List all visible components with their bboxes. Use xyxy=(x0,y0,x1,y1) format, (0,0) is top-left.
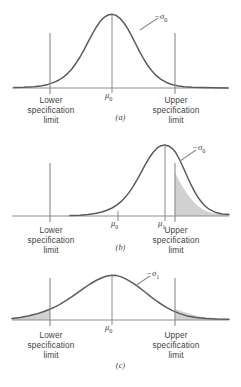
upper-spec-limit-label-c: Upper specification limit xyxy=(137,330,215,361)
panel-caption-b: (b) xyxy=(0,243,241,252)
process-capability-figure: −σ0 μ0 Lower specification limit Upper s… xyxy=(0,0,241,387)
panel-a: −σ0 μ0 Lower specification limit Upper s… xyxy=(0,0,241,125)
sigma-label-c: −σ1 xyxy=(146,268,159,280)
sigma-label-b: −σ0 xyxy=(192,142,205,154)
mean-label-a: μ0 xyxy=(105,90,112,102)
normal-curve-b xyxy=(70,145,229,216)
panel-caption-a: (a) xyxy=(0,113,241,122)
upper-tail-shade-b xyxy=(175,173,229,216)
sigma-label-a: −σ0 xyxy=(154,11,167,23)
panel-caption-c: (c) xyxy=(0,361,241,370)
reference-mean-label-b: μ0 xyxy=(111,218,118,230)
mean-label-c: μ0 xyxy=(105,322,112,334)
lower-spec-limit-label-c: Lower specification limit xyxy=(12,330,90,361)
normal-curve-a xyxy=(14,14,228,88)
panel-c: −σ1 μ0 Lower specification limit Upper s… xyxy=(0,256,241,387)
panel-b: −σ0 μ0 μ1 Lower specification limit Uppe… xyxy=(0,125,241,256)
